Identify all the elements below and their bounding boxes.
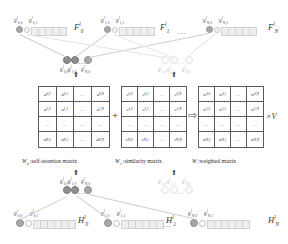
cell <box>147 27 155 36</box>
operator-plus: + <box>112 110 118 121</box>
bottom-cells-H0 <box>33 220 75 229</box>
matrix-cell: aN,1 <box>57 132 75 147</box>
matrix-cell: ... <box>122 117 138 132</box>
matrix-cell: ... <box>154 87 170 102</box>
cell <box>249 27 257 36</box>
matrix-caption-Wc: Wc :similarity matrix <box>115 158 162 166</box>
matrix-cell: ... <box>154 132 170 147</box>
cell <box>68 220 76 229</box>
matrix-cell: c1,0 <box>122 102 138 117</box>
matrix-cell: w0,N <box>247 87 263 102</box>
matrix-cell: w1,0 <box>199 102 215 117</box>
matrix-cell: w0,1 <box>215 87 231 102</box>
matrix-cell: ... <box>74 132 92 147</box>
bottom-group-label-H0: Hl0 <box>78 215 88 227</box>
mid-upper-left-label-2: glN,0 <box>81 66 90 74</box>
mid-upper-right-ellipsis: ... <box>177 58 185 66</box>
top-group-label-F0: Fl0 <box>74 22 83 34</box>
arrow-up-right-lower: ⬆ <box>171 170 177 177</box>
matrix-cell: ... <box>154 117 170 132</box>
cell <box>242 220 250 229</box>
matrix-cell: a1,1 <box>57 102 75 117</box>
matrix-cell: wN,0 <box>199 132 215 147</box>
top-node-label-FN-0: glN,0 <box>203 17 212 25</box>
matrix-cell: ... <box>231 117 247 132</box>
top-node-FN-0 <box>206 26 213 33</box>
bottom-node-H0-0 <box>16 219 24 227</box>
matrix-Wc: c0,0c0,1...c0,Nc1,0c1,1...c1,N..........… <box>121 86 187 148</box>
matrix-cell: cN,0 <box>122 132 138 147</box>
operator-implies: ⇨ <box>188 110 197 121</box>
matrix-cell: ... <box>138 117 154 132</box>
matrix-cell: c1,N <box>170 102 186 117</box>
arrow-up-left: ⬆ <box>73 72 79 79</box>
top-row-ellipsis: ... <box>178 28 186 36</box>
matrix-caption-Wa: Wa :self-attention matrix <box>22 158 77 166</box>
matrix-cell: c0,N <box>170 87 186 102</box>
bottom-node-HN-1 <box>199 220 206 227</box>
bottom-node-HN-0 <box>190 219 198 227</box>
matrix-cell: a1,0 <box>39 102 57 117</box>
top-node-label-F0-1: gl0,1 <box>29 17 37 25</box>
mid-lower-left-node-0 <box>63 186 71 194</box>
matrix-cell: w0,0 <box>199 87 215 102</box>
top-node-F0-0 <box>16 26 23 33</box>
mid-upper-right-node-2 <box>185 56 193 64</box>
top-cells-FN <box>221 27 256 36</box>
matrix-cell: c0,1 <box>138 87 154 102</box>
matrix-cell: a0,1 <box>57 87 75 102</box>
top-group-label-FN: FlN <box>268 22 278 34</box>
top-node-label-F0-0: gl0,0 <box>14 17 22 25</box>
top-node-label-F1-0: gl1,0 <box>101 17 109 25</box>
bottom-cells-HN <box>207 220 249 229</box>
mid-lower-right-node-0 <box>161 186 169 194</box>
bottom-node-H0-1 <box>25 220 32 227</box>
matrix-cell: ... <box>231 132 247 147</box>
matrix-cell: w1,N <box>247 102 263 117</box>
bottom-node-label-H1-1: gl1,1 <box>117 210 125 218</box>
mid-lower-right-node-2 <box>185 186 193 194</box>
matrix-cell: ... <box>74 117 92 132</box>
top-node-FN-1 <box>214 27 220 33</box>
matrix-cell: a0,0 <box>39 87 57 102</box>
matrix-caption-W: W :weighted matrix <box>192 158 236 164</box>
matrix-cell: aN,0 <box>39 132 57 147</box>
matrix-cell: c0,0 <box>122 87 138 102</box>
figure-canvas: gl0,0gl0,1Fl0gl1,0gl1,1Fl1glN,0glN,1FlN.… <box>0 0 288 244</box>
matrix-cell: wN,1 <box>215 132 231 147</box>
mid-lower-left-ellipsis: ... <box>78 188 86 196</box>
top-cells-F0 <box>31 27 66 36</box>
mid-lower-right-ellipsis: ... <box>177 188 185 196</box>
top-group-label-F1: Fl1 <box>160 22 169 34</box>
matrix-cell: ... <box>231 102 247 117</box>
mid-upper-right-label-0: gl0,1 <box>158 66 166 74</box>
matrix-Wa: a0,0a0,1...a0,Na1,0a1,1...a1,N..........… <box>38 86 110 148</box>
matrix-cell: ... <box>74 87 92 102</box>
matrix-cell: ... <box>57 117 75 132</box>
matrix-cell: ... <box>215 117 231 132</box>
mid-upper-left-label-0: gl0,0 <box>60 66 68 74</box>
bottom-node-H1-0 <box>104 219 112 227</box>
matrix-cell: aN,N <box>92 132 110 147</box>
matrix-cell: ... <box>199 117 215 132</box>
matrix-cell: ... <box>39 117 57 132</box>
matrix-cell: ... <box>247 117 263 132</box>
bottom-node-H1-1 <box>113 220 120 227</box>
top-node-label-F1-1: gl1,1 <box>116 17 124 25</box>
arrow-up-right: ⬆ <box>171 72 177 79</box>
matrix-cell: cN,1 <box>138 132 154 147</box>
matrix-cell: a0,N <box>92 87 110 102</box>
top-node-F1-1 <box>112 27 118 33</box>
bottom-group-label-HN: HlN <box>268 215 279 227</box>
top-node-F0-1 <box>24 27 30 33</box>
matrix-cell: wN,N <box>247 132 263 147</box>
cell <box>59 27 67 36</box>
matrix-cell: ... <box>74 102 92 117</box>
bottom-node-label-HN-1: glN,1 <box>204 210 213 218</box>
matrix-cell: w1,1 <box>215 102 231 117</box>
matrix-cell: cN,N <box>170 132 186 147</box>
mid-upper-left-ellipsis: ... <box>78 58 86 66</box>
mid-upper-right-label-2: glN,1 <box>182 66 191 74</box>
bottom-row-ellipsis: ... <box>163 221 171 229</box>
bottom-cells-H1 <box>121 220 163 229</box>
